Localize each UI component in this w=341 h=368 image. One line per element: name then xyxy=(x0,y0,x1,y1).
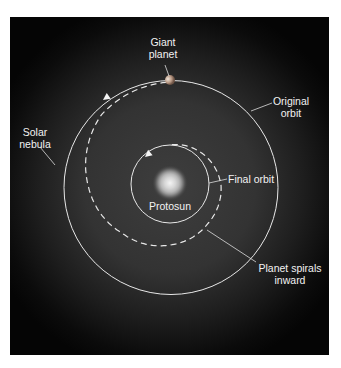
label-solar-nebula-1: Solar xyxy=(23,126,48,138)
protosun xyxy=(152,165,188,201)
label-protosun: Protosun xyxy=(149,200,191,212)
diagram-frame: Giant planet Original orbit Solar nebula… xyxy=(10,17,329,355)
label-giant-planet-1: Giant xyxy=(150,36,175,48)
label-giant-planet-2: planet xyxy=(149,48,178,60)
label-planet-spirals-1: Planet spirals xyxy=(258,262,321,274)
label-original-orbit-2: orbit xyxy=(281,107,302,119)
label-solar-nebula-2: nebula xyxy=(19,138,51,150)
giant-planet xyxy=(165,75,175,85)
label-planet-spirals-2: inward xyxy=(275,274,306,286)
label-original-orbit-1: Original xyxy=(273,95,309,107)
label-final-orbit: Final orbit xyxy=(228,173,274,185)
